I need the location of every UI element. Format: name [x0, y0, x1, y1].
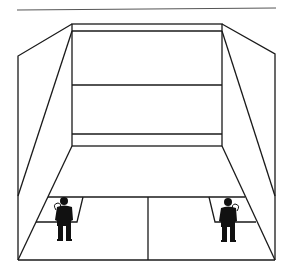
court-drawing	[0, 0, 289, 274]
right-player-icon	[219, 198, 239, 242]
court-floor	[18, 197, 275, 260]
front-wall	[72, 24, 222, 146]
top-rule-divider	[17, 8, 276, 10]
left-player-icon	[54, 197, 73, 241]
squash-court-diagram	[0, 0, 289, 274]
